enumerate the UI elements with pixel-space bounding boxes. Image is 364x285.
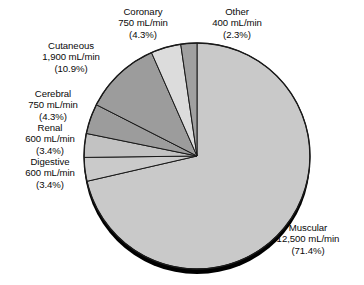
slice-label-other-value: 400 mL/min xyxy=(182,17,292,28)
slice-label-renal-name: Renal xyxy=(0,122,100,133)
slice-label-digestive-value: 600 mL/min xyxy=(0,167,100,178)
slice-label-muscular-value: 12,500 mL/min xyxy=(252,233,364,244)
slice-label-cutaneous-value: 1,900 mL/min xyxy=(16,51,126,62)
slice-label-other-name: Other xyxy=(182,6,292,17)
slice-label-digestive-name: Digestive xyxy=(0,156,100,167)
slice-label-muscular: Muscular 12,500 mL/min (71.4%) xyxy=(252,222,364,256)
slice-label-cerebral: Cerebral 750 mL/min (4.3%) xyxy=(0,88,106,122)
slice-label-renal-percent: (3.4%) xyxy=(0,145,100,156)
slice-label-muscular-name: Muscular xyxy=(252,222,364,233)
slice-label-digestive: Digestive 600 mL/min (3.4%) xyxy=(0,156,100,190)
slice-label-cutaneous-name: Cutaneous xyxy=(16,40,126,51)
slice-label-cutaneous: Cutaneous 1,900 mL/min (10.9%) xyxy=(16,40,126,74)
slice-label-renal: Renal 600 mL/min (3.4%) xyxy=(0,122,100,156)
slice-label-cerebral-percent: (4.3%) xyxy=(0,111,106,122)
slice-label-digestive-percent: (3.4%) xyxy=(0,179,100,190)
pie-chart-figure: Coronary 750 mL/min (4.3%) Other 400 mL/… xyxy=(0,0,364,285)
slice-label-muscular-percent: (71.4%) xyxy=(252,245,364,256)
slice-label-other: Other 400 mL/min (2.3%) xyxy=(182,6,292,40)
slice-label-renal-value: 600 mL/min xyxy=(0,133,100,144)
slice-label-cerebral-value: 750 mL/min xyxy=(0,99,106,110)
slice-label-cerebral-name: Cerebral xyxy=(0,88,106,99)
slice-label-other-percent: (2.3%) xyxy=(182,29,292,40)
slice-label-cutaneous-percent: (10.9%) xyxy=(16,63,126,74)
